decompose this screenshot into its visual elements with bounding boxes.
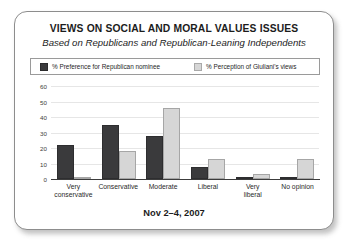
y-tick-label-50: 50 (40, 98, 47, 105)
chart-card: VIEWS ON SOCIAL AND MORAL VALUES ISSUES … (14, 11, 334, 230)
bar[interactable] (102, 125, 119, 179)
x-axis-label: Liberal (185, 183, 230, 200)
y-tick-label-20: 20 (40, 145, 47, 152)
x-axis-label: Moderate (141, 183, 186, 200)
x-axis-label-line: Liberal (185, 183, 230, 191)
chart-legend: % Preference for Republican nominee % Pe… (30, 58, 320, 75)
legend-label-preference: % Preference for Republican nominee (52, 63, 160, 70)
bar[interactable] (57, 145, 74, 179)
x-axis-label-line: conservative (51, 191, 96, 199)
x-axis-labels: VeryconservativeConservativeModerateLibe… (51, 183, 320, 200)
bar-group (96, 86, 141, 179)
y-tick-label-30: 30 (40, 129, 47, 136)
legend-item-preference[interactable]: % Preference for Republican nominee (40, 63, 160, 71)
bar-group (185, 86, 230, 179)
legend-item-perception[interactable]: % Perception of Giuliani's views (194, 63, 296, 71)
chart-subtitle: Based on Republicans and Republican-Lean… (15, 37, 333, 48)
bar[interactable] (191, 167, 208, 179)
x-axis-label-line: Very (230, 183, 275, 191)
y-tick-label-0: 0 (44, 176, 47, 183)
x-axis-label-line: No opinion (275, 183, 320, 191)
bar[interactable] (146, 136, 163, 179)
bar-groups (51, 86, 319, 179)
x-axis-label: Veryconservative (51, 183, 96, 200)
chart-footer-date: Nov 2–4, 2007 (15, 208, 333, 218)
y-tick-label-40: 40 (40, 114, 47, 121)
bar-group (51, 86, 96, 179)
bar-group (140, 86, 185, 179)
bar[interactable] (119, 151, 136, 179)
x-axis-label-line: liberal (230, 191, 275, 199)
chart-title: VIEWS ON SOCIAL AND MORAL VALUES ISSUES (15, 23, 333, 34)
x-axis-label-line: Moderate (141, 183, 186, 191)
y-tick-label-60: 60 (40, 83, 47, 90)
plot-area: 0102030405060 (51, 86, 319, 179)
x-axis-label: Veryliberal (230, 183, 275, 200)
y-tick-label-10: 10 (40, 160, 47, 167)
x-axis-label: No opinion (275, 183, 320, 200)
bar[interactable] (208, 159, 225, 179)
bar[interactable] (297, 159, 314, 179)
bar-group (230, 86, 275, 179)
legend-swatch-light (194, 63, 202, 71)
x-axis-label-line: Conservative (96, 183, 141, 191)
legend-label-perception: % Perception of Giuliani's views (206, 63, 296, 70)
x-axis-label: Conservative (96, 183, 141, 200)
x-axis-line (51, 179, 320, 180)
legend-swatch-dark (40, 63, 48, 71)
bar[interactable] (163, 108, 180, 179)
x-axis-label-line: Very (51, 183, 96, 191)
bar-group (274, 86, 319, 179)
